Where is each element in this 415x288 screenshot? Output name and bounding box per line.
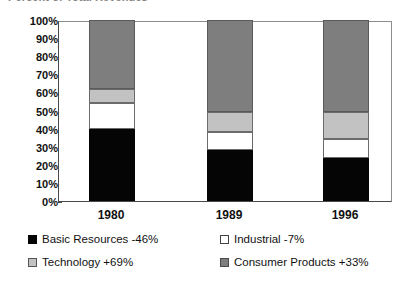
y-tick-label-10: 10% [10,178,58,189]
chart-legend: Basic Resources -46% Industrial -7% Tech… [28,234,400,280]
y-tick-label-60: 60% [10,88,58,99]
y-tick-label-40: 40% [10,124,58,135]
y-axis: 0%10%20%30%40%50%60%70%80%90%100% [0,21,58,202]
legend-swatch-technology [28,258,37,267]
bar-segment-1989-consumer-products[interactable] [207,20,253,112]
legend-swatch-consumer-products [220,258,229,267]
bar-column-1980[interactable] [89,20,135,201]
stacked-bar-chart: Percent of Total Revenues 0%10%20%30%40%… [0,0,415,288]
plot-area [58,21,392,202]
y-tick-label-70: 70% [10,70,58,81]
legend-label-technology: Technology +69% [42,257,133,269]
bar-segment-1996-consumer-products[interactable] [323,20,369,112]
bar-segment-1980-technology[interactable] [89,89,135,103]
bar-segment-1989-basic-resources[interactable] [207,150,253,201]
bar-column-1989[interactable] [207,20,253,201]
legend-label-consumer-products: Consumer Products +33% [234,257,369,269]
y-tick-label-90: 90% [10,34,58,45]
chart-title: Percent of Total Revenues [8,0,148,3]
legend-item-industrial[interactable]: Industrial -7% [220,234,304,246]
bar-segment-1980-consumer-products[interactable] [89,20,135,89]
bar-segment-1980-basic-resources[interactable] [89,129,135,201]
bar-segment-1980-industrial[interactable] [89,103,135,128]
bar-segment-1996-technology[interactable] [323,112,369,139]
legend-item-technology[interactable]: Technology +69% [28,257,133,269]
y-tick-label-20: 20% [10,160,58,171]
y-tick-label-0: 0% [10,197,58,208]
bar-column-1996[interactable] [323,20,369,201]
bar-segment-1996-basic-resources[interactable] [323,158,369,201]
y-tick-mark-0 [58,202,62,203]
legend-swatch-basic-resources [28,235,37,244]
bar-segment-1989-technology[interactable] [207,112,253,132]
y-tick-label-80: 80% [10,52,58,63]
y-tick-label-50: 50% [10,106,58,117]
x-tick-label-1996: 1996 [305,208,385,222]
legend-swatch-industrial [220,235,229,244]
x-tick-label-1989: 1989 [189,208,269,222]
bar-segment-1989-industrial[interactable] [207,132,253,150]
x-tick-label-1980: 1980 [71,208,151,222]
y-tick-label-30: 30% [10,142,58,153]
legend-item-basic-resources[interactable]: Basic Resources -46% [28,234,158,246]
y-tick-label-100: 100% [10,16,58,27]
legend-label-industrial: Industrial -7% [234,234,304,246]
legend-label-basic-resources: Basic Resources -46% [42,234,158,246]
legend-item-consumer-products[interactable]: Consumer Products +33% [220,257,369,269]
bar-segment-1996-industrial[interactable] [323,139,369,157]
